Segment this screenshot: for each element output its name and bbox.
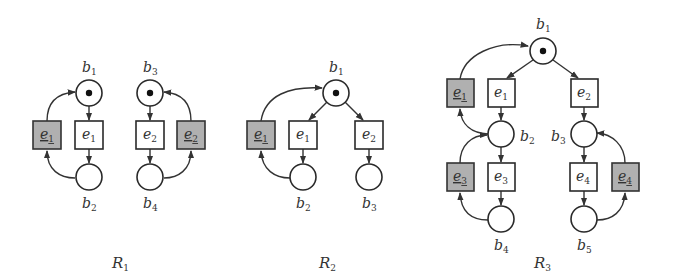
transition-e1-reverse: e1 xyxy=(247,121,275,149)
transition-e4-reverse: e4 xyxy=(612,163,639,191)
transition-e2: e2 xyxy=(355,121,383,149)
arc-rev-e4-b3 xyxy=(597,133,625,163)
arc-b2-rev-e1 xyxy=(460,109,488,134)
transition-e3-reverse: e3 xyxy=(447,163,474,191)
arc-b1-e1 xyxy=(309,102,327,120)
arc-rev-e3-b2 xyxy=(460,135,487,163)
svg-text:b1: b1 xyxy=(536,16,551,34)
place-b2: b2 xyxy=(290,164,316,213)
svg-text:b1: b1 xyxy=(82,59,97,77)
token-dot xyxy=(147,90,153,96)
net-r3: b1 b2 b3 b4 b5 e1 e1 e2 xyxy=(447,16,639,273)
net-r1: b1 b2 b3 b4 e1 e1 e2 e2 xyxy=(33,59,205,273)
token-dot xyxy=(333,90,339,96)
place-b1: b1 xyxy=(323,59,349,106)
svg-text:b4: b4 xyxy=(143,195,158,213)
place-b4: b4 xyxy=(137,164,163,213)
arc-b2-rev-e1 xyxy=(261,151,290,178)
place-b3: b3 xyxy=(551,121,597,147)
svg-text:b3: b3 xyxy=(143,59,158,77)
place-b2: b2 xyxy=(76,164,102,213)
transition-e1: e1 xyxy=(75,121,103,149)
arc-b5-rev-e4 xyxy=(597,193,625,220)
arc-b2-rev-e1 xyxy=(47,151,75,178)
place-b4: b4 xyxy=(488,206,514,255)
net-r2: b1 b2 b3 e1 e1 e2 R2 xyxy=(247,59,383,273)
arc-rev-e1-b1 xyxy=(47,92,75,121)
svg-text:b3: b3 xyxy=(362,195,377,213)
place-b5: b5 xyxy=(571,206,597,255)
place-b2: b2 xyxy=(488,121,535,147)
svg-text:b5: b5 xyxy=(577,237,592,255)
svg-text:b1: b1 xyxy=(329,59,344,77)
transition-e3: e3 xyxy=(488,163,515,191)
net-title-r1: R1 xyxy=(111,254,129,273)
place-b3: b3 xyxy=(137,59,163,106)
place-b1: b1 xyxy=(530,16,556,64)
arc-b1-e1 xyxy=(507,60,533,78)
petri-net-diagram: b1 b2 b3 b4 e1 e1 e2 e2 xyxy=(0,0,674,280)
token-dot xyxy=(86,90,92,96)
net-title-r2: R2 xyxy=(318,254,336,273)
svg-text:b2: b2 xyxy=(296,195,311,213)
place-b3: b3 xyxy=(356,164,382,213)
arc-b1-e2 xyxy=(345,102,363,120)
transition-e2: e2 xyxy=(571,79,598,107)
transition-e1-reverse: e1 xyxy=(447,79,474,107)
arc-b4-rev-e3 xyxy=(460,193,488,220)
svg-text:b3: b3 xyxy=(551,128,566,146)
svg-text:b4: b4 xyxy=(494,237,509,255)
transition-e1: e1 xyxy=(289,121,317,149)
transition-e2: e2 xyxy=(136,121,164,149)
transition-e1-reverse: e1 xyxy=(33,121,61,149)
transition-e2-reverse: e2 xyxy=(177,121,205,149)
transition-e4: e4 xyxy=(570,163,597,191)
arc-rev-e1-b1 xyxy=(460,45,528,79)
net-title-r3: R3 xyxy=(533,254,551,273)
place-b1: b1 xyxy=(76,59,102,106)
arc-b4-rev-e2 xyxy=(164,151,191,178)
transition-e1: e1 xyxy=(488,79,515,107)
svg-text:b2: b2 xyxy=(520,128,535,146)
arc-rev-e2-b3 xyxy=(164,92,191,121)
token-dot xyxy=(540,48,546,54)
svg-text:b2: b2 xyxy=(82,195,97,213)
arc-b1-e2 xyxy=(553,60,578,78)
